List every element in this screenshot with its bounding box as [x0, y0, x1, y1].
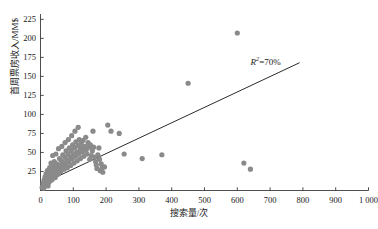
- scatter-point: [159, 152, 164, 157]
- y-tick-label: 125: [8, 90, 36, 100]
- x-tick-label: 1 000: [359, 195, 378, 205]
- scatter-point: [76, 125, 81, 130]
- x-tick-label: 500: [198, 195, 211, 205]
- y-tick-label: 75: [8, 128, 36, 138]
- scatter-point: [108, 129, 113, 134]
- scatter-chart-figure: 首周票房收入/MM$ 搜索量/次 R2=70% 2550751001251501…: [0, 0, 378, 229]
- scatter-point: [235, 30, 240, 35]
- y-tick-label: 25: [8, 166, 36, 176]
- scatter-point: [95, 152, 100, 157]
- plot-canvas: [0, 0, 378, 229]
- x-tick-label: 0: [38, 195, 42, 205]
- x-tick-label: 700: [264, 195, 277, 205]
- x-tick-label: 300: [133, 195, 146, 205]
- x-tick-label: 800: [297, 195, 310, 205]
- scatter-point: [186, 81, 191, 86]
- scatter-point: [90, 129, 95, 134]
- scatter-point: [83, 135, 88, 140]
- scatter-point: [241, 161, 246, 166]
- scatter-point: [102, 164, 107, 169]
- scatter-point: [105, 122, 110, 127]
- x-tick-label: 600: [231, 195, 244, 205]
- scatter-point: [96, 145, 101, 150]
- x-tick-label: 200: [100, 195, 113, 205]
- scatter-point: [100, 170, 105, 175]
- x-tick-label: 100: [67, 195, 80, 205]
- scatter-point: [53, 151, 58, 156]
- y-tick-label: 175: [8, 52, 36, 62]
- y-tick-label: 150: [8, 71, 36, 81]
- scatter-points-group: [40, 30, 253, 190]
- scatter-point: [97, 157, 102, 162]
- y-tick-label: 225: [8, 14, 36, 24]
- x-tick-label: 400: [165, 195, 178, 205]
- y-tick-label: 50: [8, 147, 36, 157]
- x-tick-label: 900: [329, 195, 342, 205]
- scatter-point: [69, 133, 74, 138]
- r-squared-annotation: R2=70%: [250, 55, 280, 67]
- y-tick-label: 100: [8, 109, 36, 119]
- r-squared-value: 70%: [264, 57, 281, 67]
- scatter-point: [117, 131, 122, 136]
- scatter-point: [91, 145, 96, 150]
- y-tick-label: 200: [8, 33, 36, 43]
- scatter-point: [122, 151, 127, 156]
- scatter-point: [248, 167, 253, 172]
- scatter-point: [140, 156, 145, 161]
- x-axis-title: 搜索量/次: [0, 206, 378, 219]
